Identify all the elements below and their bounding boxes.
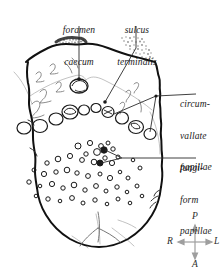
label-foramen-caecum-line1: foramen <box>50 25 108 36</box>
leader-circumvallate-a <box>114 96 156 114</box>
compass-label-right: R <box>167 236 173 246</box>
label-circumvallate-line2: vallate <box>180 131 224 142</box>
label-sulcus-terminalis-line2: terminalis <box>108 57 166 68</box>
label-sulcus-terminalis: sulcus terminalis <box>108 4 166 88</box>
compass-label-anterior: A <box>192 259 198 269</box>
label-fungiform-line1: fungi- <box>180 163 224 174</box>
label-sulcus-terminalis-line1: sulcus <box>108 25 166 36</box>
label-fungiform-line3: papillae <box>180 226 224 237</box>
label-fungiform-line2: form <box>180 195 224 206</box>
label-circumvallate-line1: circum- <box>180 99 224 110</box>
label-foramen-caecum: foramen caecum <box>50 4 108 88</box>
compass-label-left: L <box>214 236 219 246</box>
fungiform-papillae <box>27 140 144 205</box>
compass-label-posterior: P <box>192 211 198 221</box>
tongue-dorsum-figure: foramen caecum sulcus terminalis circum-… <box>0 0 224 275</box>
label-foramen-caecum-line2: caecum <box>50 57 108 68</box>
circumvallate-papillae <box>17 104 156 140</box>
